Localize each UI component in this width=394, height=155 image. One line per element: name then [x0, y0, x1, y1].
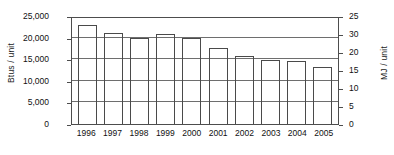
y-tick-mark-left — [67, 17, 71, 18]
y-tick-mark-right — [339, 17, 343, 18]
x-tick-label: 2004 — [284, 128, 310, 138]
bar — [156, 34, 175, 124]
y-tick-label-right: 0 — [349, 119, 379, 129]
x-tick-label: 1996 — [73, 128, 99, 138]
y-tick-label-right: 30 — [349, 29, 379, 39]
y-tick-label-right: 20 — [349, 47, 379, 57]
y-tick-mark-right — [339, 35, 343, 36]
x-tick-label: 1997 — [100, 128, 126, 138]
y-tick-label-left: 5,000 — [1, 97, 49, 107]
y-tick-mark-left — [67, 39, 71, 40]
bar — [130, 38, 149, 124]
bar — [235, 56, 254, 124]
bar — [287, 61, 306, 124]
x-tick-label: 2005 — [311, 128, 337, 138]
y-tick-label-left: 25,000 — [1, 11, 49, 21]
x-tick-label: 2001 — [205, 128, 231, 138]
y-tick-mark-left — [67, 125, 71, 126]
x-tick-label: 2002 — [232, 128, 258, 138]
y-tick-mark-left — [67, 82, 71, 83]
plot-area — [71, 17, 339, 125]
y-tick-label-right: 10 — [349, 83, 379, 93]
x-tick-label: 1998 — [126, 128, 152, 138]
y-tick-mark-right — [339, 125, 343, 126]
x-tick-label: 2003 — [258, 128, 284, 138]
bar — [104, 33, 123, 124]
y-tick-label-left: 15,000 — [1, 54, 49, 64]
bar — [313, 67, 332, 124]
x-axis-tick-labels: 1996199719981999200020012002200320042005 — [71, 128, 339, 138]
y-tick-label-right: 15 — [349, 65, 379, 75]
bar-series — [72, 18, 338, 124]
y-tick-label-right: 25 — [349, 11, 379, 21]
y-tick-mark-left — [67, 103, 71, 104]
y-axis-label-right: MJ / unit — [379, 30, 389, 96]
y-tick-mark-right — [339, 71, 343, 72]
y-tick-label-right: 5 — [349, 101, 379, 111]
bar — [78, 25, 97, 124]
y-tick-mark-right — [339, 107, 343, 108]
x-tick-label: 1999 — [152, 128, 178, 138]
y-tick-label-left: 20,000 — [1, 33, 49, 43]
bar — [261, 60, 280, 124]
bar — [209, 48, 228, 124]
y-tick-mark-right — [339, 53, 343, 54]
y-tick-label-left: 10,000 — [1, 76, 49, 86]
bar — [182, 38, 201, 124]
y-tick-mark-left — [67, 60, 71, 61]
x-tick-label: 2000 — [179, 128, 205, 138]
bar-chart: Btus / unit MJ / unit 05,00010,00015,000… — [0, 0, 394, 155]
y-tick-label-left: 0 — [1, 119, 49, 129]
y-tick-mark-right — [339, 89, 343, 90]
